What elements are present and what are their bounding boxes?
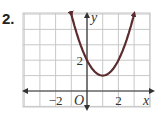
x-axis-label: x — [142, 93, 150, 108]
y-tick-label: 2 — [77, 53, 84, 68]
x-tick-label: −2 — [49, 93, 63, 108]
y-axis-label: y — [89, 10, 98, 25]
origin-label: O — [74, 93, 84, 108]
parabola-graph: −222Oxy — [0, 0, 156, 113]
x-tick-label: 2 — [115, 93, 122, 108]
tick-labels: −222Oxy — [49, 10, 150, 108]
